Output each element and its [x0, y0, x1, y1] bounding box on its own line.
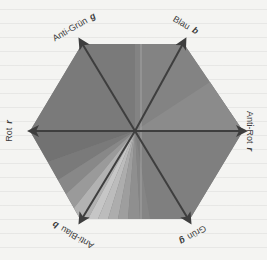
- label-rot: Rotr: [4, 120, 14, 142]
- sector-upper-left: [30, 44, 135, 131]
- label-anti-rot: Anti-Rotr: [245, 111, 255, 151]
- sector-lower-right: [135, 131, 243, 219]
- label-symbol: r: [4, 120, 14, 124]
- label-text: Rot: [4, 128, 14, 142]
- hexagon-figure: [0, 0, 267, 260]
- label-symbol: r: [245, 148, 255, 152]
- label-text: Anti-Rot: [245, 111, 255, 144]
- color-hexagon-diagram: Anti-Grüng Blaub Rotr Anti-Rotr Anti-Bla…: [0, 0, 267, 260]
